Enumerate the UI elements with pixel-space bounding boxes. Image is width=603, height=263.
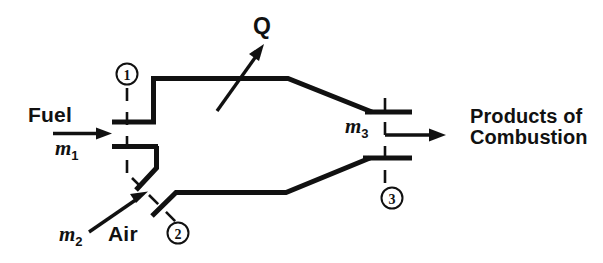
- mass-flow-air-subscript: 2: [75, 234, 82, 249]
- mass-flow-products-label: m3: [345, 115, 369, 141]
- fuel-label: Fuel: [28, 104, 72, 126]
- products-flow-arrow: [385, 129, 446, 142]
- station-marker-2-label: 2: [175, 227, 182, 242]
- mass-flow-fuel-subscript: 1: [71, 148, 78, 163]
- mass-flow-air-symbol: m: [59, 222, 75, 246]
- station-marker-2: 2: [168, 223, 189, 244]
- mass-flow-air-label: m2: [59, 223, 83, 249]
- products-of-combustion-label: Products ofCombustion: [470, 106, 588, 148]
- chamber-bottom-wall: [152, 158, 370, 216]
- combustion-chamber-diagram: 1 2 3 Fuel m1 m2 Air m3 Q Products ofCom…: [0, 0, 603, 263]
- station-marker-1: 1: [117, 64, 138, 85]
- products-line-2: Combustion: [470, 127, 588, 148]
- products-line-1: Products of: [470, 105, 582, 127]
- station-marker-3: 3: [382, 188, 403, 209]
- mass-flow-fuel-label: m1: [55, 137, 79, 163]
- station-marker-1-label: 1: [124, 68, 131, 83]
- mass-flow-products-symbol: m: [345, 114, 361, 138]
- chamber-top-wall: [151, 79, 372, 113]
- heat-transfer-label: Q: [253, 14, 271, 38]
- air-label: Air: [108, 223, 138, 245]
- mass-flow-products-subscript: 3: [361, 126, 368, 141]
- mass-flow-fuel-symbol: m: [55, 136, 71, 160]
- station-marker-3-label: 3: [389, 192, 396, 207]
